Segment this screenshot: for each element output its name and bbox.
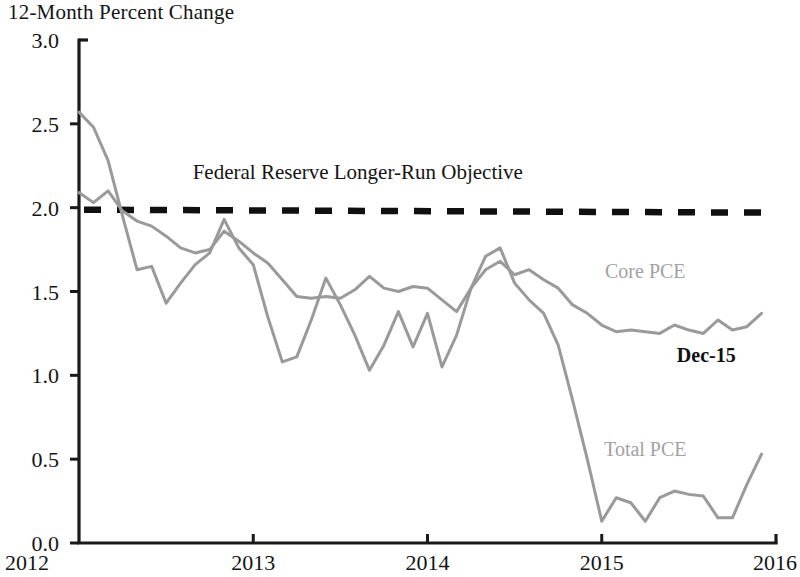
- y-tick-label: 3.0: [32, 28, 60, 53]
- x-tick-label: 2014: [406, 550, 450, 575]
- line-chart-plot: 0.00.51.01.52.02.53.0 201220132014201520…: [0, 0, 800, 577]
- y-tick-label: 1.0: [32, 363, 60, 388]
- x-axis-ticks: 20122013201420152016: [5, 534, 797, 575]
- x-tick-label: 2016: [753, 550, 797, 575]
- annotation-core-pce: Core PCE: [605, 260, 686, 282]
- chart-figure: 12-Month Percent Change 0.00.51.01.52.02…: [0, 0, 800, 577]
- chart-axes: [79, 40, 776, 543]
- annotation-dec-15: Dec-15: [677, 344, 736, 366]
- annotation-federal-reserve-longer-run-objective: Federal Reserve Longer-Run Objective: [193, 160, 523, 184]
- x-tick-label: 2012: [5, 550, 49, 575]
- x-tick-label: 2013: [231, 550, 275, 575]
- y-axis-ticks: 0.00.51.01.52.02.53.0: [32, 28, 80, 556]
- y-tick-label: 2.5: [32, 112, 60, 137]
- y-tick-label: 1.5: [32, 280, 60, 305]
- x-tick-label: 2015: [580, 550, 624, 575]
- reference-line-fed-objective: [84, 210, 773, 213]
- y-tick-label: 0.5: [32, 447, 60, 472]
- y-tick-label: 2.0: [32, 196, 60, 221]
- annotation-total-pce: Total PCE: [604, 438, 687, 460]
